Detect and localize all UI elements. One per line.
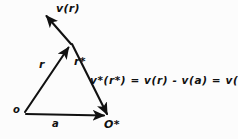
label-a: a: [52, 119, 59, 129]
label-r-star: r*: [74, 56, 86, 67]
vector-v-of-r-line: [47, 16, 72, 44]
label-r: r: [39, 59, 45, 70]
vector-r-line: [25, 48, 69, 113]
label-v-of-r: v(r): [56, 3, 80, 14]
vector-diagram-figure: v(r) r r* o a O* v*(r*) = v(r) - v(a) = …: [0, 0, 238, 139]
label-origin-o: o: [13, 105, 20, 115]
equation-text: v*(r*) = v(r) - v(a) = v(r*): [90, 75, 238, 86]
vector-a-line: [26, 114, 104, 116]
label-o-star: O*: [104, 119, 120, 130]
